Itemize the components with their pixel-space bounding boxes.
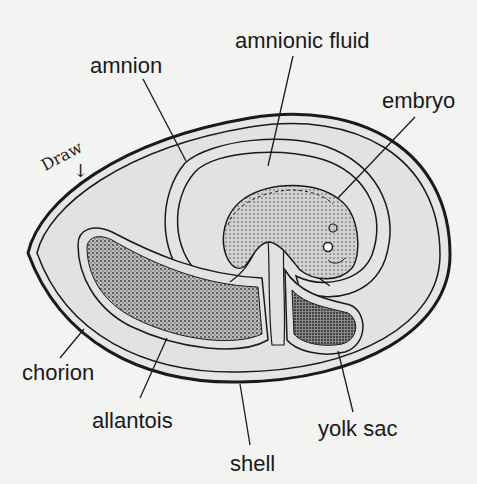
- label-amnion: amnion: [90, 55, 162, 77]
- label-allantois: allantois: [92, 410, 173, 432]
- handwritten-arrow-icon: ↓: [73, 160, 88, 181]
- label-shell: shell: [230, 453, 275, 475]
- label-chorion: chorion: [22, 362, 94, 384]
- egg-diagram: [0, 0, 477, 484]
- label-embryo: embryo: [382, 90, 455, 112]
- shell-leader: [240, 384, 250, 445]
- label-amnionic-fluid: amnionic fluid: [235, 30, 370, 52]
- chorion-leader: [60, 329, 84, 358]
- label-yolk-sac: yolk sac: [318, 418, 397, 440]
